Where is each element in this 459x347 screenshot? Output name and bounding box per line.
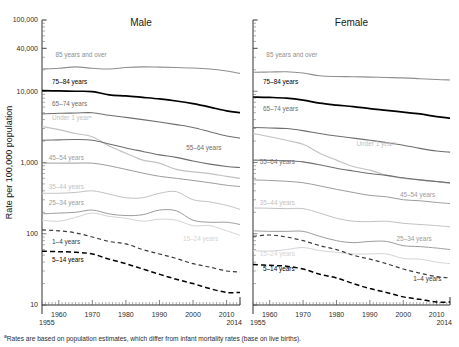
series-label-female-7: 25–34 years xyxy=(397,235,432,243)
y-tick-label: 10 xyxy=(30,301,38,308)
mortality-rate-chart: Rate per 100,000 population100,00040,000… xyxy=(0,0,459,347)
y-tick-label: 100 xyxy=(26,230,38,237)
series-label-female-10: 5–14 years xyxy=(263,265,295,273)
series-label-female-5: 45–54 years xyxy=(400,191,435,199)
y-tick-label: 1,000 xyxy=(20,159,38,166)
series-label-male-8: 15–24 years xyxy=(183,235,218,243)
series-label-male-4: 55–64 years xyxy=(186,144,221,152)
y-tick-label: 40,000 xyxy=(17,45,39,52)
x-tick-label: 1980 xyxy=(329,311,345,318)
chart-footnote: aRates are based on population estimates… xyxy=(4,332,456,343)
series-label-male-1: 75–84 years xyxy=(52,78,87,86)
series-line-male-0 xyxy=(42,67,240,74)
series-label-male-3: Under 1 yearᵃ xyxy=(52,114,92,122)
series-label-male-5: 45–54 years xyxy=(49,154,84,162)
series-label-male-7: 25–34 years xyxy=(49,199,84,207)
x-tick-label: 2010 xyxy=(219,311,235,318)
series-label-female-4: 55–64 years xyxy=(260,158,295,166)
x-tick-label: 2010 xyxy=(429,311,445,318)
x-tick-label: 2000 xyxy=(185,311,201,318)
series-label-female-3: Under 1 yearᵃ xyxy=(357,140,397,148)
series-label-female-6: 35–44 years xyxy=(260,199,295,207)
y-axis-label: Rate per 100,000 population xyxy=(4,106,14,220)
x-tick-label: 1990 xyxy=(362,311,378,318)
series-label-male-2: 65–74 years xyxy=(52,100,87,108)
y-tick-label: 100,000 xyxy=(13,16,38,23)
series-label-female-0: 85 years and over xyxy=(266,51,318,59)
x-end-label: 2014 xyxy=(436,319,452,326)
series-label-female-1: 75–84 years xyxy=(263,78,298,86)
x-tick-label: 1970 xyxy=(295,311,311,318)
footnote-text: Rates are based on population estimates,… xyxy=(7,335,301,342)
series-label-male-0: 85 years and over xyxy=(55,51,107,59)
x-tick-label: 1960 xyxy=(51,311,67,318)
series-line-male-3 xyxy=(42,127,240,179)
series-label-male-9: 1–4 years xyxy=(52,238,80,246)
y-tick-label: 10,000 xyxy=(17,88,39,95)
x-start-label: 1955 xyxy=(39,319,55,326)
series-line-female-6 xyxy=(253,208,450,227)
x-end-label: 2014 xyxy=(226,319,242,326)
panel-male xyxy=(42,20,240,314)
x-tick-label: 1990 xyxy=(152,311,168,318)
panel-title-female: Female xyxy=(335,17,369,28)
x-tick-label: 2000 xyxy=(395,311,411,318)
series-label-female-9: 1–4 years xyxy=(413,275,441,283)
series-label-male-10: 5–14 years xyxy=(52,256,84,264)
panel-title-male: Male xyxy=(130,17,152,28)
x-tick-label: 1960 xyxy=(262,311,278,318)
series-line-male-7 xyxy=(42,210,240,225)
x-start-label: 1955 xyxy=(250,319,266,326)
series-label-female-2: 65–74 years xyxy=(263,105,298,113)
series-label-female-8: 15–24 years xyxy=(260,250,295,258)
x-tick-label: 1970 xyxy=(85,311,101,318)
x-tick-label: 1980 xyxy=(118,311,134,318)
series-label-male-6: 35–44 years xyxy=(49,183,84,191)
